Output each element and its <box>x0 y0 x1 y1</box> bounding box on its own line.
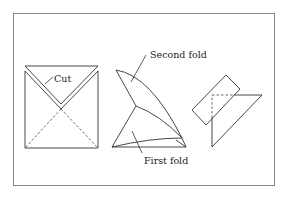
cut-label: Cut <box>54 73 71 84</box>
second-fold-label: Second fold <box>150 49 207 60</box>
fold-diagram: Cut Second fold First fold <box>0 0 287 200</box>
square-panel: Cut <box>25 66 98 148</box>
diagram-canvas: Cut Second fold First fold <box>0 0 287 200</box>
strip-panel <box>192 75 262 147</box>
first-fold-label: First fold <box>144 155 188 166</box>
folded-panel: Second fold First fold <box>112 49 207 166</box>
